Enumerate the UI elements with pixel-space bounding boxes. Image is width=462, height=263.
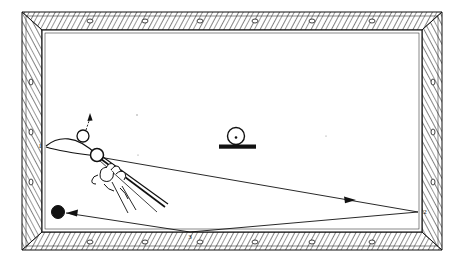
marker-ball-center-dot	[235, 136, 238, 139]
sight-marker-top	[197, 19, 203, 23]
marker-ball	[228, 128, 245, 145]
sight-marker-bottom	[252, 240, 258, 244]
rail-top	[22, 12, 442, 30]
sight-marker-top	[309, 19, 315, 23]
sight-marker-top	[369, 19, 375, 23]
bed-speck	[137, 154, 138, 155]
marker-stand-base	[219, 145, 256, 149]
sight-marker-left	[29, 179, 33, 185]
sight-marker-bottom	[87, 240, 93, 244]
eight-ball	[52, 206, 65, 219]
sight-marker-bottom	[369, 240, 375, 244]
billiards-diagram: 1 2 3	[0, 0, 462, 263]
label-rail-contact-2: 2	[423, 208, 427, 216]
sight-marker-top	[87, 19, 93, 23]
object-ball	[77, 130, 89, 142]
sight-marker-right	[431, 179, 435, 185]
sight-marker-right	[431, 79, 435, 85]
label-rail-contact-3: 3	[188, 233, 192, 241]
sight-marker-left	[29, 79, 33, 85]
bed-speck	[136, 114, 137, 115]
sight-marker-right	[431, 129, 435, 135]
sight-marker-top	[252, 19, 258, 23]
diagram-canvas: 1 2 3	[0, 0, 462, 263]
bed-speck	[325, 135, 326, 136]
label-rail-contact-1: 1	[38, 142, 42, 150]
sight-marker-left	[29, 129, 33, 135]
sight-marker-bottom	[197, 240, 203, 244]
sight-marker-top	[142, 19, 148, 23]
sight-marker-bottom	[142, 240, 148, 244]
sight-marker-bottom	[309, 240, 315, 244]
rail-bottom	[22, 232, 442, 250]
